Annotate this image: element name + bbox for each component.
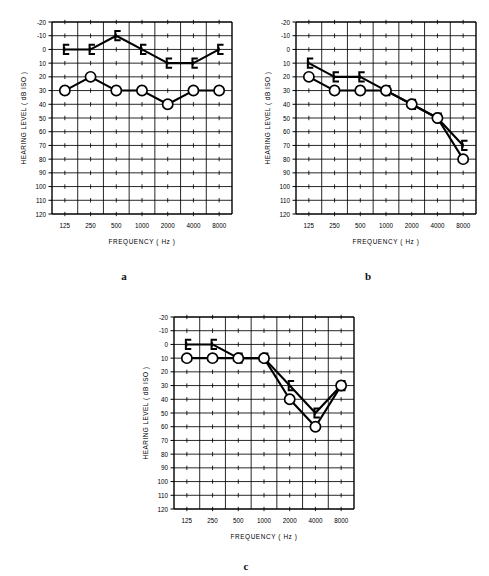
circle-icon — [458, 154, 468, 164]
x-axis-title: FREQUENCY ( Hz ) — [109, 238, 176, 246]
grid-lines — [296, 20, 476, 216]
y-tick-label: -20 — [159, 314, 169, 321]
y-tick-label: 100 — [35, 183, 46, 190]
y-tick-label: 50 — [39, 115, 47, 122]
air-conduction-marker — [85, 72, 95, 82]
circle-icon — [111, 85, 121, 95]
air-conduction-marker — [432, 113, 442, 123]
x-tick-label: 4000 — [430, 222, 445, 229]
air-conduction-marker — [259, 353, 269, 363]
air-conduction-marker — [163, 99, 173, 109]
x-axis-title: FREQUENCY ( Hz ) — [353, 238, 420, 246]
y-tick-label: 110 — [158, 492, 169, 499]
y-tick-label: 40 — [39, 101, 47, 108]
circle-icon — [137, 85, 147, 95]
circle-icon — [355, 85, 365, 95]
x-tick-label: 2000 — [161, 222, 176, 229]
y-tick-label: 10 — [161, 355, 169, 362]
air-conduction-marker — [285, 394, 295, 404]
x-tick-label: 8000 — [456, 222, 471, 229]
x-tick-label: 2000 — [405, 222, 420, 229]
audiogram-panel-a: -20-100102030405060708090100110120125250… — [4, 8, 244, 263]
y-tick-label: 20 — [161, 368, 169, 375]
x-tick-label: 8000 — [334, 517, 349, 524]
circle-icon — [60, 85, 70, 95]
circle-icon — [432, 113, 442, 123]
air-conduction-marker — [111, 85, 121, 95]
y-tick-label: 70 — [161, 437, 169, 444]
air-conduction-marker — [207, 353, 217, 363]
panel-letter-c: c — [236, 560, 256, 572]
y-tick-label: -10 — [159, 327, 169, 334]
y-tick-label: 80 — [161, 451, 169, 458]
circle-icon — [304, 72, 314, 82]
circle-icon — [259, 353, 269, 363]
audiogram-chart-c: -20-100102030405060708090100110120125250… — [126, 303, 366, 558]
y-tick-label: -10 — [281, 32, 291, 39]
air-conduction-marker — [336, 380, 346, 390]
audiogram-chart-a: -20-100102030405060708090100110120125250… — [4, 8, 244, 263]
air-conduction-marker — [407, 99, 417, 109]
x-tick-label: 500 — [111, 222, 122, 229]
x-tick-label: 1000 — [257, 517, 272, 524]
x-tick-label: 2000 — [283, 517, 298, 524]
circle-icon — [233, 353, 243, 363]
circle-icon — [310, 422, 320, 432]
y-tick-label: 30 — [161, 382, 169, 389]
y-tick-label: 50 — [161, 410, 169, 417]
y-tick-label: 10 — [283, 60, 291, 67]
y-tick-label: 120 — [157, 506, 168, 513]
air-conduction-marker — [182, 353, 192, 363]
x-tick-label: 250 — [85, 222, 96, 229]
x-tick-label: 250 — [329, 222, 340, 229]
y-tick-label: 120 — [279, 211, 290, 218]
y-tick-label: 60 — [39, 128, 47, 135]
x-tick-label: 125 — [304, 222, 315, 229]
y-tick-label: 0 — [164, 341, 168, 348]
y-tick-label: 20 — [39, 73, 47, 80]
x-axis-title: FREQUENCY ( Hz ) — [231, 533, 298, 541]
y-tick-label: 110 — [36, 197, 47, 204]
y-tick-label: 120 — [35, 211, 46, 218]
circle-icon — [336, 380, 346, 390]
y-tick-label: 30 — [39, 87, 47, 94]
data-series — [60, 31, 224, 109]
y-tick-label: 100 — [279, 183, 290, 190]
air-conduction-marker — [458, 154, 468, 164]
y-tick-label: 70 — [283, 142, 291, 149]
y-axis-title: HEARING LEVEL ( dB ISO ) — [20, 72, 28, 165]
y-tick-label: 70 — [39, 142, 47, 149]
y-tick-label: 80 — [283, 156, 291, 163]
panel-letter-b: b — [358, 270, 378, 282]
panel-letter-a: a — [114, 270, 134, 282]
axis-labels: -20-100102030405060708090100110120125250… — [264, 19, 471, 246]
circle-icon — [188, 85, 198, 95]
y-tick-label: 20 — [283, 73, 291, 80]
y-tick-label: 0 — [42, 46, 46, 53]
y-tick-label: 60 — [283, 128, 291, 135]
y-tick-label: 0 — [286, 46, 290, 53]
air-conduction-marker — [310, 422, 320, 432]
air-conduction-marker — [329, 85, 339, 95]
circle-icon — [214, 85, 224, 95]
y-axis-title: HEARING LEVEL ( dB ISO ) — [264, 72, 272, 165]
air-conduction-marker — [233, 353, 243, 363]
air-conduction-marker — [214, 85, 224, 95]
y-tick-label: 50 — [283, 115, 291, 122]
x-tick-label: 4000 — [308, 517, 323, 524]
x-tick-label: 1000 — [379, 222, 394, 229]
air-conduction-marker — [355, 85, 365, 95]
x-tick-label: 500 — [355, 222, 366, 229]
y-tick-label: 90 — [39, 169, 47, 176]
circle-icon — [207, 353, 217, 363]
x-tick-label: 8000 — [212, 222, 227, 229]
y-axis-title: HEARING LEVEL ( dB ISO ) — [142, 367, 150, 460]
air-conduction-marker — [137, 85, 147, 95]
audiogram-chart-b: -20-100102030405060708090100110120125250… — [248, 8, 488, 263]
y-tick-label: 60 — [161, 423, 169, 430]
y-tick-label: 90 — [283, 169, 291, 176]
circle-icon — [329, 85, 339, 95]
x-tick-label: 4000 — [186, 222, 201, 229]
circle-icon — [285, 394, 295, 404]
y-tick-label: 10 — [39, 60, 47, 67]
